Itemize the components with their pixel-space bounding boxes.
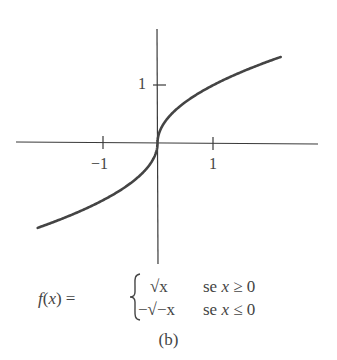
figure-caption: (b) <box>0 330 337 350</box>
case2-expression: −√−x <box>138 300 175 320</box>
formula-lhs-x: x <box>48 289 56 308</box>
case2-cond-var: x <box>221 300 229 319</box>
x-axis <box>16 142 318 144</box>
case1-cond-var: x <box>221 277 229 296</box>
piecewise-formula: f(x) = √x −√−x se x ≥ 0 se x ≤ 0 <box>38 272 298 332</box>
x-tick-label-1: 1 <box>209 155 217 173</box>
y-tick-label-1: 1 <box>138 75 146 93</box>
case2-condition: se x ≤ 0 <box>203 300 255 320</box>
formula-lhs: f(x) = <box>38 289 75 309</box>
case2-cond-word: se <box>203 300 217 319</box>
function-plot <box>0 0 337 270</box>
case2-cond-rel: ≤ 0 <box>233 300 255 319</box>
case1-cond-word: se <box>203 277 217 296</box>
case1-expression: √x <box>150 277 168 297</box>
x-tick-label-minus-1: −1 <box>91 155 108 173</box>
case1-condition: se x ≥ 0 <box>203 277 255 297</box>
formula-lhs-close: ) = <box>56 289 76 308</box>
case1-cond-rel: ≥ 0 <box>233 277 255 296</box>
